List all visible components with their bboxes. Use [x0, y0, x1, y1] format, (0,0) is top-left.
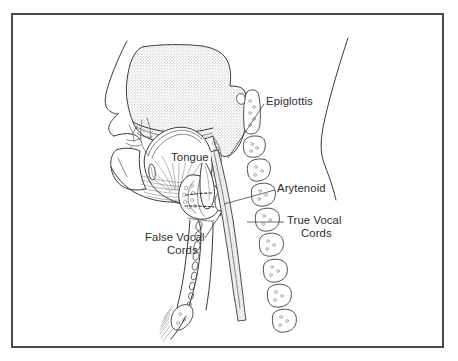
mandible: [111, 148, 146, 190]
esophagus: [210, 150, 246, 321]
strap-muscles: [160, 306, 172, 341]
vertebra-c7: [259, 233, 283, 256]
true-vocal-cords-line-1: True Vocal: [287, 214, 342, 227]
vertebra-t1: [263, 259, 287, 282]
facial-profile: [105, 41, 127, 136]
vertebra-t2: [267, 284, 291, 307]
anatomy-illustration: [0, 0, 458, 361]
false-vocal-cords-line-1: False Vocal: [145, 231, 205, 244]
false-vocal-cords-line-2: Cords: [167, 244, 205, 257]
label-epiglottis: Epiglottis: [266, 95, 313, 108]
vertebra-c5: [251, 183, 275, 206]
true-vocal-cords-line-2: Cords: [301, 227, 342, 240]
posterior-neck-contour: [321, 38, 348, 200]
vertebra-c4: [247, 159, 270, 181]
label-false-vocal-cords: False Vocal Cords: [145, 231, 205, 257]
cervical-vertebrae: [237, 90, 297, 332]
sternum: [160, 305, 193, 341]
label-tongue: Tongue: [169, 151, 211, 164]
vertebra-t3: [272, 309, 296, 332]
vertebra-c6: [255, 208, 279, 231]
vertebra-c3: [243, 136, 265, 157]
figure-page: Tongue Epiglottis Arytenoid True Vocal C…: [0, 0, 458, 361]
label-true-vocal-cords: True Vocal Cords: [287, 214, 342, 240]
label-arytenoid: Arytenoid: [277, 182, 326, 195]
